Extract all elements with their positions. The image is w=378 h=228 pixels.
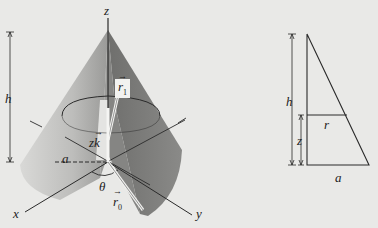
theta-label: θ bbox=[99, 180, 105, 193]
cross-section-triangle bbox=[307, 34, 369, 165]
triangle-height-label: h bbox=[286, 95, 293, 108]
z-axis-label: z bbox=[104, 4, 109, 17]
cone-left-surface bbox=[20, 30, 108, 200]
cone-diagram bbox=[0, 0, 378, 228]
triangle-z-label: z bbox=[297, 134, 302, 147]
height-label: h bbox=[5, 92, 12, 105]
cone-figure: z h r1 zk a θ r0 x y h r z a bbox=[0, 0, 378, 228]
y-axis-label: y bbox=[196, 207, 202, 220]
triangle-radius-label: r bbox=[324, 118, 329, 131]
triangle-base-label: a bbox=[335, 171, 342, 184]
radius-label: a bbox=[62, 152, 69, 165]
vector-r0-label: r0 bbox=[113, 195, 122, 212]
vector-zk-label: zk bbox=[89, 136, 100, 149]
vector-r1-label: r1 bbox=[115, 79, 130, 98]
x-axis-label: x bbox=[13, 207, 19, 220]
